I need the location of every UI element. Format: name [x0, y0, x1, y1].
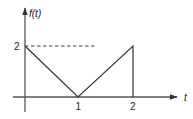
- function-curve: [25, 46, 133, 97]
- function-plot: f(t) t 2 1 2: [0, 0, 193, 119]
- x-tick-label-2: 2: [130, 101, 136, 112]
- y-axis-label: f(t): [29, 8, 41, 19]
- x-axis-label: t: [184, 92, 188, 103]
- y-tick-label-2: 2: [14, 41, 20, 52]
- x-tick-label-1: 1: [76, 101, 82, 112]
